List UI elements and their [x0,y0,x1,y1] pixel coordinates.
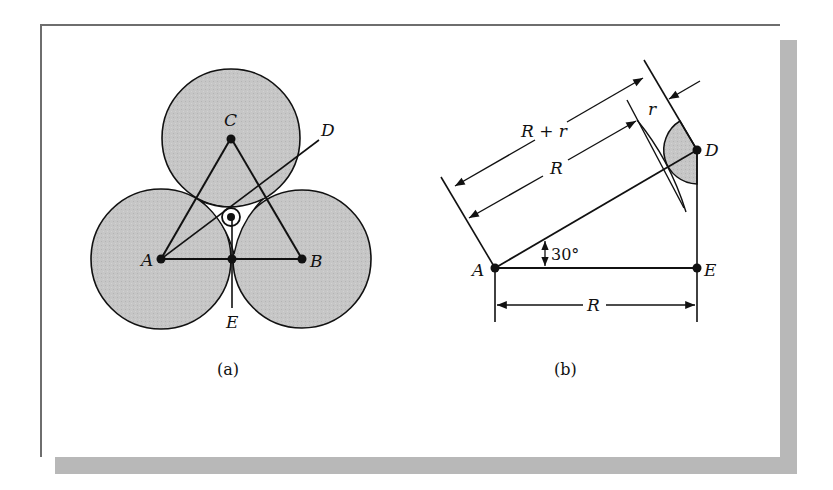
label-c: C [224,110,237,130]
angle-label: 30° [551,245,579,264]
label-b: B [309,251,323,271]
label-e: E [703,260,717,280]
panel-a: A B C D E (a) [91,69,371,379]
point-b [298,255,307,264]
small-circle-center [227,213,235,221]
point-a [491,264,500,273]
label-d: D [704,140,719,160]
point-e [228,255,237,264]
point-a [157,255,166,264]
point-c [227,135,236,144]
dim-r-horizontal: R [586,295,600,315]
figure-svg: A B C D E (a) R + r R r [0,0,833,490]
point-d [693,146,702,155]
dim-small-r: r [648,99,657,119]
panel-b: R + r R r R 30° A D E (b) [441,60,719,379]
caption-a: (a) [217,360,239,379]
label-a: A [139,250,153,270]
caption-b: (b) [554,360,577,379]
label-a: A [470,260,484,280]
label-d: D [320,120,335,140]
dim-r-slanted: R [549,158,563,178]
dim-r-plus-r: R + r [520,121,568,141]
point-e [693,264,702,273]
line-a-d [495,150,697,268]
extension-line-a [441,177,495,268]
label-e: E [225,312,239,332]
